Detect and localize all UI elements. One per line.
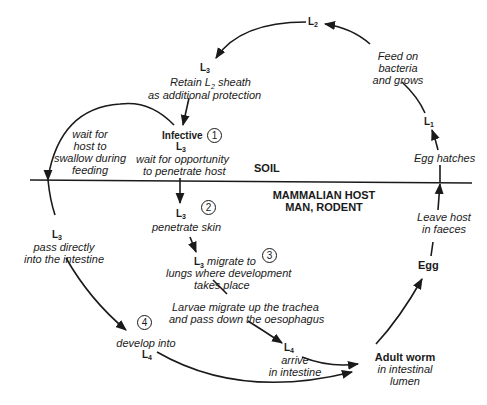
note-swallow-line4: feeding xyxy=(55,164,125,177)
note-trachea-line2: and pass down the oesophagus xyxy=(169,313,324,326)
note-in-faeces: in faeces xyxy=(412,223,476,236)
note-penetrate-skin: penetrate skin xyxy=(152,221,221,234)
note-penetrate-host: to penetrate host xyxy=(143,165,226,178)
arrow-l2-to-l3 xyxy=(216,22,306,58)
stage-l4-direct: L4 xyxy=(142,349,152,364)
arrow-l1-to-l2 xyxy=(325,24,370,44)
arrow-leave-to-soil xyxy=(438,184,440,210)
note-additional-protection: as additional protection xyxy=(148,89,261,102)
arrow-sheath-to-infective xyxy=(183,98,189,125)
note-lumen: lumen xyxy=(359,375,451,388)
note-egg-hatches: Egg hatches xyxy=(414,152,475,165)
arrow-adult-to-egg xyxy=(376,279,422,344)
step-marker-4: 4 xyxy=(137,315,152,330)
stage-l2: L2 xyxy=(308,16,318,31)
arrow-egg-hatch-to-l1 xyxy=(432,130,438,150)
arrow-skin-to-lungs xyxy=(190,237,196,252)
step-marker-3: 3 xyxy=(262,248,277,263)
note-feed-line3: and grows xyxy=(362,74,434,87)
region-host-label-line2: MAN, RODENT xyxy=(254,201,394,214)
stage-egg: Egg xyxy=(418,259,439,272)
step-marker-2: 2 xyxy=(201,200,216,215)
region-soil-label: SOIL xyxy=(254,162,280,175)
note-into-intestine: into the intestine xyxy=(16,253,112,266)
arc-oral-route xyxy=(48,180,55,215)
stage-l3-sheath: L3 xyxy=(200,62,210,77)
step-marker-1: 1 xyxy=(207,128,222,143)
soil-host-divider xyxy=(30,180,472,183)
note-migrate-lungs-line3: takes place xyxy=(194,279,250,292)
line-egg-to-leave xyxy=(431,242,433,256)
stage-l1: L1 xyxy=(424,116,434,131)
note-in-intestine: in intestine xyxy=(261,366,329,379)
arrow-pass-to-develop xyxy=(66,258,126,330)
